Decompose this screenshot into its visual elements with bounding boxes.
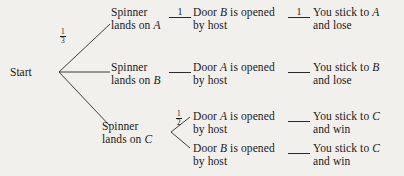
stick-door-var: C (372, 110, 380, 122)
stick-door-var: B (372, 61, 379, 73)
edge-start-to-c (59, 72, 110, 126)
start-node-label: Start (10, 66, 32, 79)
edge-start-to-a (59, 24, 110, 72)
connector-b-to-doora (169, 63, 191, 73)
connector-doorb-to-stick-c (288, 144, 310, 154)
connector-rule (288, 153, 310, 154)
connector-label: 1 (169, 7, 191, 17)
node-line-2: and lose (313, 19, 379, 32)
fraction-denominator: 2 (176, 119, 182, 127)
spinner-outcome-var: C (144, 133, 152, 145)
node-line-2: by host (193, 19, 275, 32)
edge-c-to-doorb (171, 132, 190, 148)
connector-doora-to-stick-b (288, 63, 310, 73)
fraction-denominator: 3 (60, 37, 66, 45)
node-line-2: lands on B (111, 74, 161, 87)
node-door-a-opened-after-b: Door A is opened by host (193, 61, 275, 87)
probability-label-spinner-a: 1 3 (60, 28, 66, 45)
node-line-1: Spinner (102, 120, 152, 133)
connector-doorb-to-stick-a: 1 (288, 8, 310, 18)
connector-rule (288, 17, 310, 18)
stick-door-var: A (372, 6, 379, 18)
node-spinner-lands-on-a: Spinner lands on A (111, 6, 161, 32)
outcome-stick-b-and-lose: You stick to B and lose (313, 61, 379, 87)
probability-tree-diagram: Start 1 3 Spinner lands on A Spinner lan… (0, 0, 404, 176)
spinner-outcome-var: B (153, 74, 160, 86)
connector-rule (169, 17, 191, 18)
probability-label-door-a-given-c: 1 2 (176, 110, 182, 127)
node-line-1: Spinner (111, 61, 161, 74)
connector-a-to-doorb: 1 (169, 8, 191, 18)
node-line-2: by host (193, 123, 275, 136)
node-spinner-lands-on-c: Spinner lands on C (102, 120, 152, 146)
node-line-2: lands on A (111, 19, 161, 32)
node-spinner-lands-on-b: Spinner lands on B (111, 61, 161, 87)
node-door-a-opened-after-c: Door A is opened by host (193, 110, 275, 136)
outcome-stick-c-and-win-1: You stick to C and win (313, 110, 380, 136)
node-line-2: lands on C (102, 133, 152, 146)
node-line-1: Door A is opened (193, 61, 275, 74)
node-line-2: by host (193, 74, 275, 87)
node-line-1: You stick to A (313, 6, 379, 19)
node-door-b-opened-after-a: Door B is opened by host (193, 6, 275, 32)
node-line-1: You stick to C (313, 142, 380, 155)
node-door-b-opened-after-c: Door B is opened by host (193, 142, 275, 168)
stick-door-var: C (372, 142, 380, 154)
connector-rule (288, 121, 310, 122)
spinner-outcome-var: A (153, 19, 160, 31)
node-line-1: You stick to B (313, 61, 379, 74)
connector-label: 1 (288, 7, 310, 17)
node-line-1: Door B is opened (193, 6, 275, 19)
node-line-2: and win (313, 123, 380, 136)
node-line-1: Door A is opened (193, 110, 275, 123)
node-line-1: Spinner (111, 6, 161, 19)
outcome-stick-a-and-lose: You stick to A and lose (313, 6, 379, 32)
outcome-stick-c-and-win-2: You stick to C and win (313, 142, 380, 168)
connector-rule (288, 72, 310, 73)
node-line-1: Door B is opened (193, 142, 275, 155)
node-line-2: by host (193, 155, 275, 168)
node-line-1: You stick to C (313, 110, 380, 123)
node-line-2: and lose (313, 74, 379, 87)
connector-doora-to-stick-c (288, 112, 310, 122)
node-line-2: and win (313, 155, 380, 168)
connector-rule (169, 72, 191, 73)
